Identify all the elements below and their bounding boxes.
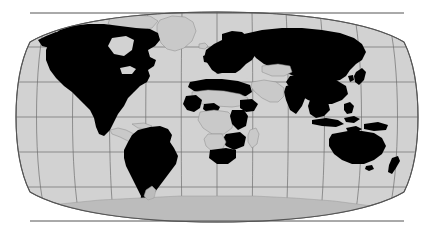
world-map-canvas bbox=[0, 0, 434, 242]
world-map-figure bbox=[0, 0, 434, 242]
